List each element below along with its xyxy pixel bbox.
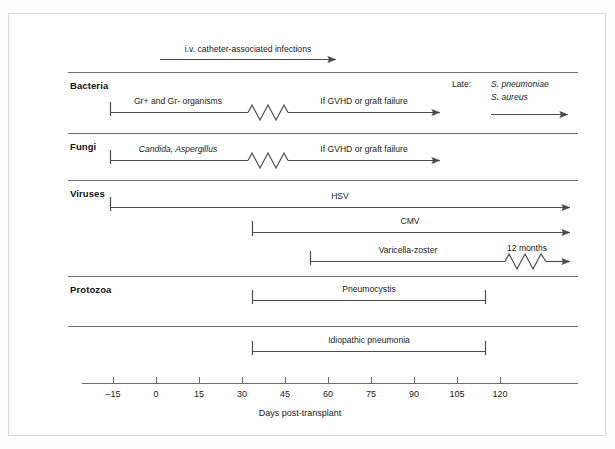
- figure-container: Bacteria Fungi Viruses Protozoa i.v. cat…: [0, 0, 615, 449]
- late-label: Late:: [452, 79, 471, 89]
- xtick-label-90: 90: [409, 389, 419, 399]
- xtick-label-15: 15: [194, 389, 204, 399]
- xtick-label-75: 75: [366, 389, 376, 399]
- row-label-viruses: Viruses: [70, 188, 105, 199]
- xtick-label-105: 105: [449, 389, 464, 399]
- bar-label-s-pneumoniae: S. pneumoniae: [491, 79, 549, 89]
- bar-label-iv-catheter: i.v. catheter-associated infections: [185, 44, 311, 54]
- row-label-protozoa: Protozoa: [70, 284, 111, 295]
- bar-label-s-aureus: S. aureus: [491, 92, 528, 102]
- row-label-fungi: Fungi: [70, 141, 96, 152]
- xtick-label--15: –15: [105, 389, 120, 399]
- row-label-bacteria: Bacteria: [70, 80, 108, 91]
- bar-label-varicella: Varicella-zoster: [379, 245, 438, 255]
- bar-label-cmv: CMV: [400, 216, 419, 226]
- timeline-diagram: [0, 0, 615, 449]
- twelve-months-label: 12 months: [507, 243, 547, 253]
- xtick-label-120: 120: [492, 389, 507, 399]
- gvhd-fungi-zigzag: [248, 153, 288, 168]
- bar-label-hsv: HSV: [331, 191, 349, 201]
- bar-gvhd-fungi: [248, 153, 440, 168]
- bar-label-candida: Candida, Aspergillus: [139, 144, 218, 154]
- bar-label-gr-organisms: Gr+ and Gr- organisms: [134, 96, 222, 106]
- bar-label-gvhd-bacteria: If GVHD or graft failure: [320, 96, 407, 106]
- bar-label-pneumocystis: Pneumocystis: [342, 284, 396, 294]
- x-axis-title: Days post-transplant: [259, 408, 342, 418]
- x-axis: [82, 377, 578, 384]
- xtick-label-60: 60: [323, 389, 333, 399]
- xtick-label-45: 45: [280, 389, 290, 399]
- bar-label-idiopathic: Idiopathic pneumonia: [328, 335, 410, 345]
- row-divider-lines: [68, 73, 578, 327]
- gvhd-bacteria-zigzag: [248, 105, 288, 120]
- xtick-label-0: 0: [153, 389, 158, 399]
- xtick-label-30: 30: [237, 389, 247, 399]
- varicella-zigzag: [505, 254, 546, 269]
- bar-varicella: [310, 251, 570, 269]
- bar-gvhd-bacteria: [248, 105, 440, 120]
- bar-label-gvhd-fungi: If GVHD or graft failure: [320, 144, 407, 154]
